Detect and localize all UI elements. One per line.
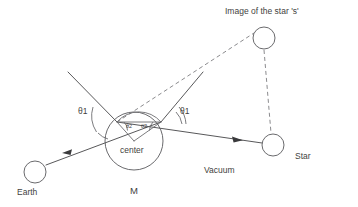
- theta2-left-label: θ2: [126, 124, 132, 130]
- theta1-right-label: θ1: [180, 107, 189, 116]
- ray-to-star-arrowhead: [232, 137, 243, 143]
- image-to-star-dashed-line: [264, 50, 271, 133]
- center-label: center: [120, 146, 144, 155]
- ray-to-earth-arrowhead: [62, 149, 72, 155]
- earth-label: Earth: [17, 188, 37, 197]
- earth-circle: [24, 161, 46, 183]
- star-circle: [262, 134, 284, 156]
- theta1-left-arc: [92, 107, 97, 132]
- star-label: Star: [295, 152, 311, 161]
- theta1-left-label: θ1: [78, 107, 87, 116]
- image-of-star-circle: [253, 27, 275, 49]
- diagram-canvas: [0, 0, 358, 207]
- incoming-ray-line: [68, 72, 117, 122]
- vacuum-label: Vacuum: [204, 166, 235, 175]
- theta2-right-label: θ2: [141, 124, 147, 130]
- image-of-star-label: Image of the star 's': [225, 7, 299, 16]
- lensing-diagram: Image of the star 's' Star Earth M cente…: [0, 0, 358, 207]
- theta1-left-arc-lower: [98, 133, 108, 139]
- mass-label: M: [130, 186, 138, 196]
